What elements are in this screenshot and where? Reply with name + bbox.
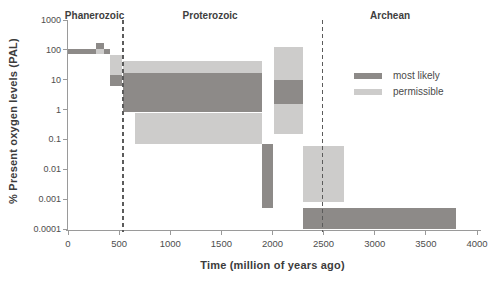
legend-item-permissible: permissible — [354, 87, 444, 97]
x-axis-title: Time (million of years ago) — [68, 259, 477, 271]
x-tick-mark — [477, 231, 478, 235]
segment-permissible — [96, 49, 104, 55]
eon-label: Proterozoic — [183, 10, 238, 21]
y-tick-label: 1 — [17, 105, 61, 115]
y-tick-label: 1000 — [17, 15, 61, 25]
y-tick-mark — [63, 169, 67, 170]
legend-label: most likely — [393, 71, 440, 81]
segment-most-likely — [262, 144, 273, 208]
x-tick-mark — [323, 231, 324, 235]
eon-label: Phanerozoic — [65, 10, 124, 21]
y-tick-mark — [63, 109, 67, 110]
x-tick-label: 0 — [65, 238, 70, 249]
legend-swatch-permissible — [354, 89, 382, 95]
y-tick-mark — [63, 20, 67, 21]
x-tick-mark — [425, 231, 426, 235]
x-tick-label: 3500 — [415, 238, 436, 249]
segment-permissible — [303, 146, 344, 202]
y-tick-mark — [63, 49, 67, 50]
segment-permissible — [135, 113, 263, 145]
segment-most-likely — [104, 49, 110, 55]
x-tick-mark — [221, 231, 222, 235]
segment-most-likely — [68, 49, 96, 55]
x-axis-line — [66, 230, 481, 231]
segment-permissible — [110, 55, 122, 75]
x-tick-mark — [68, 231, 69, 235]
legend: most likelypermissible — [354, 71, 444, 103]
y-tick-label: 10 — [17, 75, 61, 85]
x-tick-label: 1500 — [211, 238, 232, 249]
x-tick-mark — [374, 231, 375, 235]
y-tick-label: 0.1 — [17, 134, 61, 144]
legend-label: permissible — [393, 87, 444, 97]
segment-most-likely — [123, 73, 262, 113]
oxygen-history-chart: % Present oxygen levels (PAL) Time (mill… — [0, 0, 493, 289]
eon-label: Archean — [370, 10, 410, 21]
segment-most-likely — [303, 208, 455, 229]
x-tick-label: 1000 — [160, 238, 181, 249]
segment-most-likely — [96, 43, 104, 49]
y-tick-mark — [63, 229, 67, 230]
x-tick-label: 4000 — [466, 238, 487, 249]
y-tick-mark — [63, 199, 67, 200]
segment-permissible — [274, 47, 304, 80]
eon-boundary-dashed-line — [122, 20, 124, 232]
x-tick-label: 3000 — [364, 238, 385, 249]
segment-most-likely — [110, 75, 122, 87]
x-tick-label: 2500 — [313, 238, 334, 249]
legend-item-most-likely: most likely — [354, 71, 444, 81]
y-tick-label: 0.001 — [17, 194, 61, 204]
y-tick-mark — [63, 139, 67, 140]
y-tick-label: 100 — [17, 45, 61, 55]
x-tick-mark — [272, 231, 273, 235]
y-tick-label: 0.01 — [17, 164, 61, 174]
segment-permissible — [123, 61, 262, 73]
legend-swatch-most-likely — [354, 73, 382, 79]
y-tick-mark — [63, 79, 67, 80]
x-tick-mark — [119, 231, 120, 235]
y-tick-label: 0.0001 — [17, 224, 61, 234]
x-tick-label: 500 — [111, 238, 127, 249]
eon-boundary-dashed-line — [322, 20, 324, 232]
x-tick-mark — [170, 231, 171, 235]
x-tick-label: 2000 — [262, 238, 283, 249]
segment-most-likely — [274, 80, 304, 105]
segment-permissible — [274, 104, 304, 134]
